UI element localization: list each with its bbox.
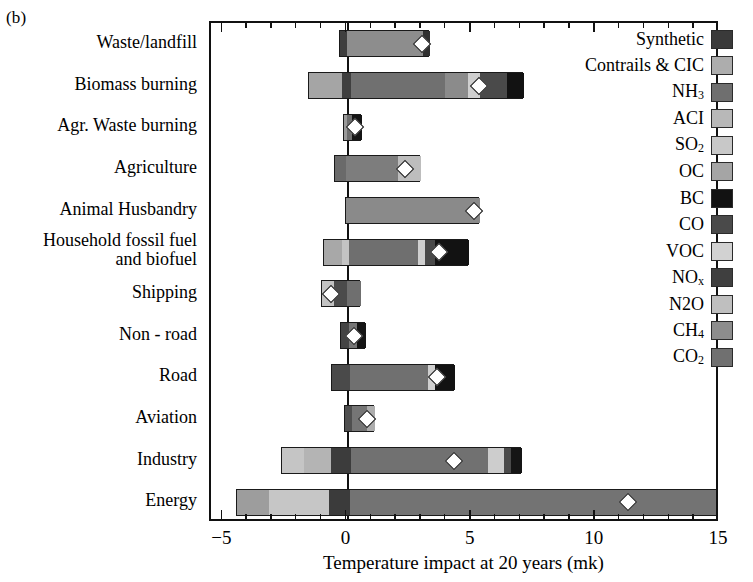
legend-item-contrails[interactable]: Contrails & CIC xyxy=(513,53,733,80)
bar-segment-voc xyxy=(488,448,504,473)
legend-item-n2o[interactable]: N2O xyxy=(513,291,733,318)
x-tick-top-major xyxy=(221,23,223,32)
x-tick-bottom-major xyxy=(221,510,223,519)
legend-label: Contrails & CIC xyxy=(585,55,704,76)
x-tick-bottom-minor xyxy=(668,514,669,519)
x-tick-bottom-minor xyxy=(494,514,495,519)
category-label: Non - road xyxy=(119,324,197,343)
x-tick-top-minor xyxy=(494,23,495,28)
bar-row xyxy=(211,489,716,516)
legend-item-ch4[interactable]: CH4 xyxy=(513,318,733,345)
category-label: Biomass burning xyxy=(74,74,197,93)
legend-label: N2O xyxy=(669,294,704,315)
category-label: Energy xyxy=(145,491,197,510)
x-tick-bottom-minor xyxy=(543,514,544,519)
category-label: Waste/landfill xyxy=(96,32,197,51)
legend-item-co[interactable]: CO xyxy=(513,212,733,239)
legend-swatch-aci xyxy=(711,109,733,128)
x-tick-bottom-minor xyxy=(370,514,371,519)
stacked-bar[interactable] xyxy=(236,489,716,516)
legend-item-aci[interactable]: ACI xyxy=(513,106,733,133)
bar-segment-co2 xyxy=(351,448,488,473)
legend-swatch-contrails xyxy=(711,56,733,75)
bar-segment-co2 xyxy=(350,490,716,515)
legend-item-so2[interactable]: SO2 xyxy=(513,132,733,159)
x-tick-top-minor xyxy=(394,23,395,28)
x-tick-bottom-major xyxy=(469,510,471,519)
legend-label: CO2 xyxy=(673,346,704,368)
bar-segment-ch4 xyxy=(346,198,480,223)
legend-label: VOC xyxy=(666,241,704,262)
legend-swatch-oc xyxy=(711,162,733,181)
legend-swatch-so2 xyxy=(711,136,733,155)
category-label: Animal Husbandry xyxy=(60,199,197,218)
bar-row xyxy=(211,447,716,474)
bar-segment-aci xyxy=(269,490,329,515)
bar-row xyxy=(211,405,716,432)
legend-label: CH4 xyxy=(673,320,704,342)
bar-segment-nox xyxy=(340,31,347,56)
x-tick-bottom-minor xyxy=(519,514,520,519)
x-tick-label: 0 xyxy=(341,527,351,549)
x-tick-label: −5 xyxy=(211,527,231,549)
x-tick-top-minor xyxy=(295,23,296,28)
legend-swatch-bc xyxy=(711,189,733,208)
bar-segment-oc xyxy=(324,240,343,265)
bar-segment-so2 xyxy=(237,490,269,515)
bar-segment-nox xyxy=(345,406,352,431)
x-tick-bottom-minor xyxy=(618,514,619,519)
legend: SyntheticContrails & CICNH3ACISO2OCBCCOV… xyxy=(513,26,733,371)
x-tick-bottom-minor xyxy=(394,514,395,519)
legend-item-voc[interactable]: VOC xyxy=(513,238,733,265)
x-tick-bottom-minor xyxy=(270,514,271,519)
bar-segment-oc xyxy=(309,73,343,98)
bar-segment-nox xyxy=(335,156,346,181)
x-tick-bottom-minor xyxy=(444,514,445,519)
bar-segment-bc xyxy=(511,448,522,473)
x-tick-top-minor xyxy=(320,23,321,28)
x-tick-bottom-minor xyxy=(245,514,246,519)
stacked-bar[interactable] xyxy=(281,447,522,474)
legend-swatch-n2o xyxy=(711,295,733,314)
legend-label: BC xyxy=(680,188,704,209)
legend-item-oc[interactable]: OC xyxy=(513,159,733,186)
legend-label: CO xyxy=(679,214,704,235)
x-tick-bottom-minor xyxy=(419,514,420,519)
x-tick-bottom-minor xyxy=(643,514,644,519)
bar-segment-co2 xyxy=(351,73,445,98)
legend-item-co2[interactable]: CO2 xyxy=(513,344,733,371)
x-tick-top-minor xyxy=(444,23,445,28)
legend-item-bc[interactable]: BC xyxy=(513,185,733,212)
legend-swatch-co xyxy=(711,215,733,234)
legend-swatch-synthetic xyxy=(711,30,733,49)
stacked-bar[interactable] xyxy=(345,197,479,224)
category-label: Agriculture xyxy=(114,157,197,176)
x-tick-top-major xyxy=(345,23,347,32)
legend-item-nox[interactable]: NOx xyxy=(513,265,733,292)
bar-segment-co2 xyxy=(350,365,428,390)
x-tick-top-minor xyxy=(245,23,246,28)
legend-label: OC xyxy=(679,161,704,182)
legend-swatch-voc xyxy=(711,242,733,261)
x-tick-top-minor xyxy=(270,23,271,28)
x-tick-label: 15 xyxy=(709,527,728,549)
category-label: Aviation xyxy=(135,407,197,426)
bar-segment-nox xyxy=(332,365,349,390)
bar-segment-nox xyxy=(342,73,351,98)
x-tick-label: 5 xyxy=(465,527,475,549)
bar-segment-voc xyxy=(418,240,425,265)
x-tick-bottom-minor xyxy=(568,514,569,519)
legend-item-synthetic[interactable]: Synthetic xyxy=(513,26,733,53)
x-tick-bottom-minor xyxy=(320,514,321,519)
stacked-bar[interactable] xyxy=(308,72,523,99)
bar-segment-co2 xyxy=(349,240,419,265)
x-tick-bottom-major xyxy=(593,510,595,519)
category-label: Agr. Waste burning xyxy=(57,116,197,135)
bar-segment-co xyxy=(504,448,511,473)
bar-segment-so2 xyxy=(282,448,304,473)
bar-segment-ch4 xyxy=(346,156,398,181)
x-tick-top-major xyxy=(469,23,471,32)
bar-segment-aci xyxy=(304,448,331,473)
legend-item-nh3[interactable]: NH3 xyxy=(513,79,733,106)
bar-segment-ch4 xyxy=(445,73,467,98)
